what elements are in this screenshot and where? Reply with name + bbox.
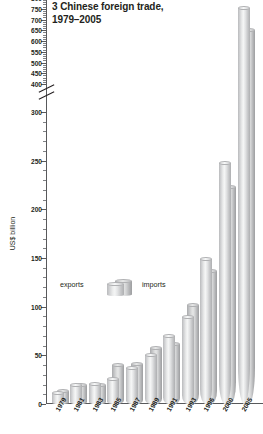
y-tick-label-550: 550	[20, 48, 42, 55]
y-axis-title: US$ billion	[9, 204, 16, 264]
y-tick-label-50: 50	[20, 352, 42, 359]
bar-exports-1991	[163, 334, 175, 404]
y-minor-tick	[43, 0, 46, 1]
y-minor-tick	[43, 35, 46, 36]
y-minor-tick	[43, 277, 46, 278]
chart-container: 3 Chinese foreign trade, 1979–2005 05010…	[0, 0, 263, 434]
y-minor-tick	[43, 239, 46, 240]
y-minor-tick	[43, 297, 46, 298]
y-tick-label-100: 100	[20, 303, 42, 310]
y-tick-label-400: 400	[20, 81, 42, 88]
y-minor-tick	[43, 219, 46, 220]
y-minor-tick	[43, 17, 46, 18]
y-minor-tick	[43, 385, 46, 386]
y-minor-tick	[43, 336, 46, 337]
y-tick-label-600: 600	[20, 38, 42, 45]
y-minor-tick	[43, 131, 46, 132]
y-minor-tick	[43, 7, 46, 8]
y-minor-tick	[43, 78, 46, 79]
bar-exports-2005	[238, 6, 250, 404]
y-minor-tick	[43, 37, 46, 38]
y-minor-tick	[43, 365, 46, 366]
y-tick-label-750: 750	[20, 5, 42, 12]
y-minor-tick	[43, 268, 46, 269]
y-minor-tick	[43, 190, 46, 191]
y-minor-tick	[43, 43, 46, 44]
bar-exports-2000	[219, 161, 231, 404]
y-minor-tick	[43, 75, 46, 76]
y-tick-label-700: 700	[20, 16, 42, 23]
y-minor-tick	[43, 54, 46, 55]
y-minor-tick	[43, 180, 46, 181]
y-minor-tick	[43, 375, 46, 376]
y-minor-tick	[43, 67, 46, 68]
y-minor-tick	[43, 122, 46, 123]
y-minor-tick	[43, 394, 46, 395]
legend-cylinder-icon	[106, 270, 134, 296]
legend-label-exports: exports	[60, 280, 84, 289]
y-minor-tick	[43, 248, 46, 249]
y-minor-tick	[43, 229, 46, 230]
y-minor-tick	[43, 170, 46, 171]
y-tick-label-800: 800	[20, 0, 42, 2]
y-minor-tick	[43, 346, 46, 347]
y-minor-tick	[43, 58, 46, 59]
y-minor-tick	[43, 200, 46, 201]
y-minor-tick	[43, 151, 46, 152]
y-tick-label-150: 150	[20, 255, 42, 262]
plot-area	[47, 0, 263, 404]
y-minor-tick	[43, 287, 46, 288]
y-minor-tick	[43, 26, 46, 27]
y-tick-label-250: 250	[20, 157, 42, 164]
y-minor-tick	[43, 28, 46, 29]
chart-legend: exports imports	[60, 268, 210, 302]
y-minor-tick	[43, 39, 46, 40]
y-minor-tick	[43, 56, 46, 57]
y-minor-tick	[43, 15, 46, 16]
y-minor-tick	[43, 60, 46, 61]
y-minor-tick	[43, 141, 46, 142]
y-minor-tick	[43, 24, 46, 25]
y-tick-label-500: 500	[20, 59, 42, 66]
y-minor-tick	[43, 2, 46, 3]
y-minor-tick	[43, 326, 46, 327]
y-tick-label-200: 200	[20, 206, 42, 213]
y-minor-tick	[43, 45, 46, 46]
y-tick-label-300: 300	[20, 109, 42, 116]
y-tick-label-0: 0	[20, 401, 42, 408]
legend-label-imports: imports	[142, 280, 166, 289]
y-minor-tick	[43, 47, 46, 48]
y-minor-tick	[43, 50, 46, 51]
y-minor-tick	[43, 11, 46, 12]
y-minor-tick	[43, 69, 46, 70]
y-tick-label-450: 450	[20, 70, 42, 77]
y-minor-tick	[43, 65, 46, 66]
y-minor-tick	[43, 4, 46, 5]
y-minor-tick	[43, 80, 46, 81]
y-minor-tick	[43, 32, 46, 33]
y-minor-tick	[43, 71, 46, 72]
y-minor-tick	[43, 316, 46, 317]
y-minor-tick	[43, 13, 46, 14]
y-minor-tick	[43, 22, 46, 23]
y-minor-tick	[43, 82, 46, 83]
y-tick-label-650: 650	[20, 27, 42, 34]
bar-exports-1993	[182, 315, 194, 404]
